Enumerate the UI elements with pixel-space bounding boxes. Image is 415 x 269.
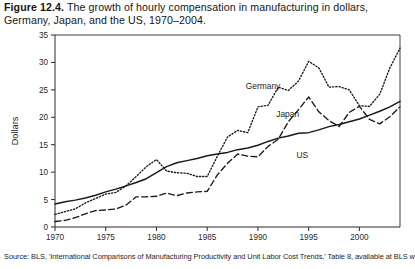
- x-tick-label: 1995: [300, 233, 318, 242]
- y-tick-label: 15: [24, 140, 48, 149]
- x-tick-label: 2000: [350, 233, 368, 242]
- series-lines: [55, 48, 400, 221]
- x-tick-label: 1975: [97, 233, 115, 242]
- figure-container: Figure 12.4. The growth of hourly compen…: [0, 0, 415, 269]
- series-label-japan: Japan: [276, 109, 299, 119]
- x-tick-label: 1990: [249, 233, 267, 242]
- series-label-germany: Germany: [246, 81, 280, 91]
- series-line-japan: [55, 97, 400, 222]
- series-line-us: [55, 101, 400, 204]
- source-note: Source: BLS, 'International Comparisons …: [4, 252, 412, 261]
- y-axis-title: Dollars: [10, 117, 20, 146]
- y-tick-label: 25: [24, 85, 48, 94]
- y-tick-label: 20: [24, 113, 48, 122]
- chart-svg: [0, 32, 415, 246]
- y-tick-label: 0: [24, 223, 48, 232]
- series-line-germany: [55, 48, 400, 214]
- y-tick-marks: [51, 35, 55, 227]
- y-tick-label: 5: [24, 195, 48, 204]
- x-tick-label: 1980: [147, 233, 165, 242]
- series-label-us: US: [297, 150, 309, 160]
- figure-caption: Figure 12.4. The growth of hourly compen…: [4, 1, 408, 27]
- plot-area: 05101520253035 1970197519801985199019952…: [0, 32, 415, 246]
- x-tick-label: 1985: [198, 233, 216, 242]
- figure-number: Figure 12.4.: [4, 1, 64, 13]
- x-tick-marks: [55, 227, 359, 231]
- y-tick-label: 30: [24, 58, 48, 67]
- y-tick-label: 35: [24, 31, 48, 40]
- x-tick-label: 1970: [46, 233, 64, 242]
- axes: [55, 35, 400, 227]
- y-tick-label: 10: [24, 168, 48, 177]
